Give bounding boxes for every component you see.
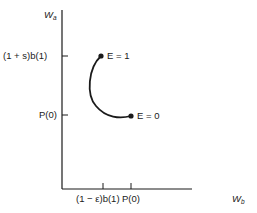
point-e1-label: E = 1 <box>107 51 129 61</box>
point-e0-marker <box>128 113 133 118</box>
y-axis-label: Wa <box>44 10 57 22</box>
x-tick-label-left: (1 − ε)b(1) <box>76 194 120 204</box>
y-axis-label-sub: a <box>53 14 57 21</box>
x-axis-label: Wb <box>232 194 245 206</box>
y-tick-label-lower: P(0) <box>39 110 57 120</box>
x-axis-label-main: W <box>232 193 241 204</box>
trajectory-curve <box>90 56 131 117</box>
x-tick-label-right: P(0) <box>122 194 140 204</box>
y-tick-label-upper: (1 + s)b(1) <box>3 51 47 61</box>
x-axis-label-sub: b <box>241 198 245 205</box>
point-e1-marker <box>98 53 103 58</box>
point-e0-label: E = 0 <box>137 111 159 121</box>
diagram-canvas: Wa Wb (1 + s)b(1) P(0) (1 − ε)b(1) P(0) … <box>0 0 257 213</box>
diagram-svg <box>0 0 257 213</box>
y-axis-label-main: W <box>44 9 53 20</box>
